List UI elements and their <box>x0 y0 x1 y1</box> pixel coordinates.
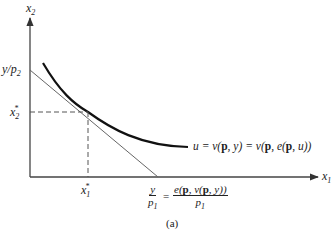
x2-star-sup: * <box>14 104 18 113</box>
figure-caption: (a) <box>166 217 178 229</box>
curve-label-part: , e( <box>271 140 286 152</box>
curve-label-part: , y) = v( <box>228 140 265 152</box>
indifference-curve-label: u = v(p, y) = v(p, e(p, u)) <box>193 141 311 153</box>
y-axis-label: x2 <box>26 2 35 17</box>
right-num-part: , y)) <box>209 183 227 195</box>
right-num-part: , v( <box>189 183 203 195</box>
x-intercept-right-fraction: e(p, v(p, y)) p1 <box>173 183 228 212</box>
x2-star-sub: 2 <box>15 112 19 121</box>
x-axis-label-sub: 1 <box>327 176 331 185</box>
x-axis-label: x1 <box>322 170 331 185</box>
x1-star-label: x1* <box>81 183 89 199</box>
left-fraction-numerator: y <box>149 183 156 196</box>
x1-star-sub: 1 <box>86 190 90 199</box>
y-intercept-sub: 2 <box>17 69 21 78</box>
diagram-canvas <box>0 0 336 238</box>
right-fraction-numerator: e(p, v(p, y)) <box>173 183 228 196</box>
y-intercept-text: y/p <box>2 62 17 76</box>
right-fraction-denominator-sub: 1 <box>201 202 205 211</box>
right-num-part: e( <box>174 183 183 195</box>
budget-line <box>30 70 158 177</box>
equals-sign: = <box>163 191 169 202</box>
curve-label-part: , u)) <box>292 140 311 152</box>
x1-star-sup: * <box>85 182 89 191</box>
x2-star-label: x2* <box>10 105 18 121</box>
x-intercept-left-fraction: y p1 <box>148 183 158 212</box>
left-fraction-denominator-sub: 1 <box>154 202 158 211</box>
y-axis-label-sub: 2 <box>31 8 35 17</box>
y-intercept-label: y/p2 <box>2 63 21 78</box>
curve-label-part: u = v( <box>193 140 221 152</box>
indifference-curve <box>43 63 188 147</box>
